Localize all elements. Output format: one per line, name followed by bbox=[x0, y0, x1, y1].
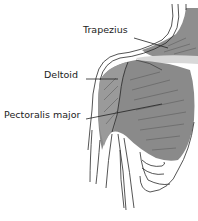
deltoid-label: Deltoid bbox=[44, 70, 78, 80]
trapezius-label: Trapezius bbox=[83, 25, 128, 35]
pectoralis-major-label: Pectoralis major bbox=[4, 110, 80, 120]
anatomy-diagram: Trapezius Deltoid Pectoralis major bbox=[0, 0, 198, 221]
arm-contours bbox=[90, 130, 134, 210]
